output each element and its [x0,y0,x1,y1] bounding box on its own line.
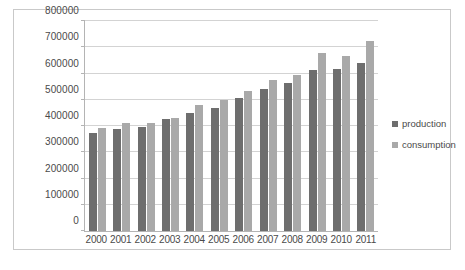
x-axis-label-2011: 2011 [354,234,379,245]
bar-group [158,21,182,231]
bar-production-2001[interactable] [113,129,121,231]
y-axis-tick-label: 200000 [45,162,79,173]
bar-group [329,21,353,231]
chart-legend: productionconsumption [392,118,456,150]
bar-consumption-2007[interactable] [269,80,277,231]
legend-label: production [402,118,446,129]
bar-production-2011[interactable] [357,63,365,231]
bar-consumption-2009[interactable] [318,53,326,232]
bar-group [134,21,158,231]
bar-group [280,21,304,231]
y-axis-tick-label: 0 [73,215,79,226]
x-axis-label-2004: 2004 [182,234,207,245]
bar-consumption-2005[interactable] [220,100,228,231]
x-axis-label-2005: 2005 [207,234,232,245]
bar-consumption-2001[interactable] [122,123,130,231]
x-axis-label-2000: 2000 [84,234,109,245]
bar-production-2006[interactable] [235,98,243,231]
bar-group [354,21,378,231]
bar-consumption-2006[interactable] [244,91,252,231]
x-axis-label-2008: 2008 [280,234,305,245]
bar-production-2007[interactable] [260,89,268,231]
chart-frame: 0100000200000300000400000500000600000700… [13,9,451,250]
bar-production-2008[interactable] [284,83,292,231]
bar-series-container [85,21,378,231]
bar-consumption-2003[interactable] [171,118,179,231]
y-axis-tick-label: 400000 [45,110,79,121]
legend-swatch-icon [392,121,398,127]
y-axis-tick-label: 100000 [45,188,79,199]
legend-swatch-icon [392,142,398,148]
bar-production-2000[interactable] [89,133,97,231]
plot-region: 0100000200000300000400000500000600000700… [84,21,378,232]
bar-group [183,21,207,231]
bar-production-2009[interactable] [309,70,317,231]
bar-consumption-2008[interactable] [293,75,301,231]
bar-consumption-2011[interactable] [366,41,374,231]
bar-production-2004[interactable] [186,113,194,231]
x-axis-label-2002: 2002 [133,234,158,245]
y-axis-tick-label: 300000 [45,136,79,147]
bar-consumption-2004[interactable] [195,105,203,231]
bar-production-2005[interactable] [211,108,219,231]
bar-production-2003[interactable] [162,119,170,231]
legend-label: consumption [402,139,456,150]
legend-item-production[interactable]: production [392,118,456,129]
bar-group [85,21,109,231]
x-axis-label-2001: 2001 [109,234,134,245]
x-axis-labels: 2000200120022003200420052006200720082009… [84,234,378,245]
x-axis-label-2010: 2010 [329,234,354,245]
legend-item-consumption[interactable]: consumption [392,139,456,150]
bar-consumption-2000[interactable] [98,128,106,231]
y-axis-tick-label: 500000 [45,83,79,94]
x-axis-label-2003: 2003 [158,234,183,245]
bar-group [256,21,280,231]
y-axis-tick-label: 800000 [45,5,79,16]
y-axis-tick-label: 600000 [45,57,79,68]
bar-group [109,21,133,231]
x-axis-label-2006: 2006 [231,234,256,245]
plot-area: 0100000200000300000400000500000600000700… [84,21,378,232]
bar-production-2002[interactable] [138,127,146,231]
bar-group [305,21,329,231]
x-axis-label-2007: 2007 [256,234,281,245]
bar-production-2010[interactable] [333,69,341,231]
x-axis-label-2009: 2009 [305,234,330,245]
bar-consumption-2002[interactable] [147,123,155,231]
bar-consumption-2010[interactable] [342,56,350,231]
bar-group [207,21,231,231]
bar-group [232,21,256,231]
y-axis-tick-label: 700000 [45,31,79,42]
